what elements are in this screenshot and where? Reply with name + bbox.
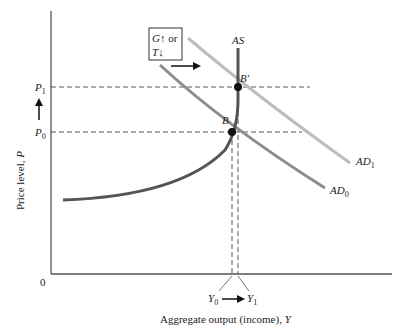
as-curve: [63, 48, 238, 200]
svg-text:G↑ or: G↑ or: [152, 32, 178, 44]
b-prime-label: B′: [240, 72, 250, 84]
y0-label: Y0: [208, 292, 218, 307]
price-up-arrowhead: [35, 98, 43, 106]
y1-label: Y1: [247, 292, 257, 307]
y0-connector: [219, 276, 232, 291]
y1-connector: [238, 276, 249, 291]
svg-text:T↓: T↓: [152, 46, 164, 58]
origin-label: 0: [40, 276, 46, 288]
p1-label: P1: [34, 81, 46, 96]
shift-arrow-head: [193, 62, 201, 70]
ad1-curve: [188, 38, 350, 163]
y-axis-title: Price level, P: [14, 151, 26, 210]
b-label: B: [222, 114, 229, 126]
ad-as-diagram: G↑ or T↓ AS B′ B AD1 AD0 P1 P0 0 Y0 Y1 A…: [0, 0, 405, 333]
point-b: [228, 128, 236, 136]
point-b-prime: [234, 83, 242, 91]
x-axis-title: Aggregate output (income), Y: [160, 313, 293, 326]
p0-label: P0: [34, 126, 46, 141]
output-arrowhead: [237, 295, 245, 303]
ad1-label: AD1: [355, 155, 375, 170]
ad0-label: AD0: [329, 184, 349, 199]
as-label: AS: [231, 34, 245, 46]
